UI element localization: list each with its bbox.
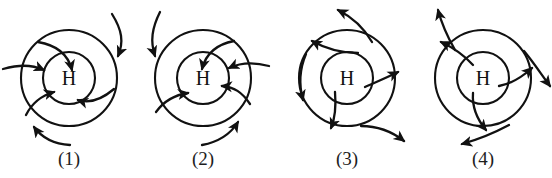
panel-3-label: (3) bbox=[278, 148, 416, 170]
panel-1-center-label: H bbox=[62, 67, 76, 89]
panel-3-inner-arrows bbox=[312, 41, 398, 128]
panel-4-diagram: H bbox=[414, 8, 552, 148]
diagram-panel-2: H (2) bbox=[134, 8, 272, 178]
diagram-panel-4: H (4) bbox=[414, 8, 552, 178]
panel-2-center-label: H bbox=[196, 67, 210, 89]
panel-2-diagram: H bbox=[134, 8, 272, 148]
panel-1-label: (1) bbox=[0, 148, 138, 170]
diagram-panel-3: H (3) bbox=[278, 8, 416, 178]
panel-3-diagram: H bbox=[278, 8, 416, 148]
panel-3-center-label: H bbox=[340, 67, 354, 89]
panel-2-label: (2) bbox=[134, 148, 272, 170]
clipped-caption-fragment bbox=[0, 0, 552, 2]
figure-root: H (1) H bbox=[0, 0, 552, 178]
panel-4-center-label: H bbox=[476, 67, 490, 89]
panel-1-diagram: H bbox=[0, 8, 138, 148]
diagram-panel-1: H (1) bbox=[0, 8, 138, 178]
panel-4-label: (4) bbox=[414, 148, 552, 170]
